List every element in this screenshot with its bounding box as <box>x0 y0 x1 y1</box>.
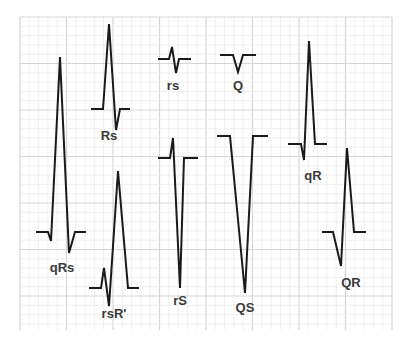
complex-label: qR <box>304 168 322 183</box>
waveform-trace <box>158 47 191 73</box>
qrs-complex-qr: QR <box>322 148 366 290</box>
waveform-trace <box>36 57 86 253</box>
qrs-complex-qr: qR <box>288 41 327 183</box>
complex-label: QS <box>236 300 255 315</box>
ecg-grid <box>20 17 392 330</box>
qrs-complex-q: Q <box>220 55 256 93</box>
complex-label: qRs <box>50 260 75 275</box>
complex-label: Rs <box>101 128 118 143</box>
complex-label: rsR' <box>102 306 127 321</box>
waveform-trace <box>91 24 130 130</box>
qrs-complex-rs: Rs <box>91 24 130 143</box>
complex-label: rS <box>173 293 187 308</box>
complex-label: rs <box>167 78 179 93</box>
ecg-qrs-diagram: qRsRsrsQrsR'rSQSqRQR <box>0 0 403 347</box>
complex-label: Q <box>233 78 243 93</box>
complex-label: QR <box>341 275 361 290</box>
